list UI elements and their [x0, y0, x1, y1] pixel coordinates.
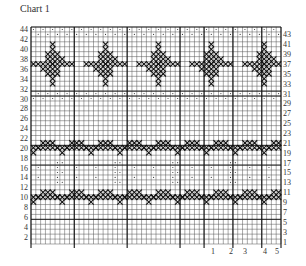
- row-label: 37: [283, 60, 291, 69]
- row-label: 26: [20, 114, 28, 123]
- row-label: 4: [24, 223, 28, 232]
- row-label: 17: [283, 159, 291, 168]
- row-label: 34: [20, 75, 28, 84]
- row-label: 7: [283, 208, 287, 217]
- grid-lines: [31, 27, 281, 244]
- row-label: 21: [283, 139, 291, 148]
- row-label: 33: [283, 80, 291, 89]
- row-label: 42: [20, 35, 28, 44]
- row-label: 9: [283, 198, 287, 207]
- left-row-numbers: 4442403836343230282624222018161412108642: [20, 25, 28, 241]
- row-label: 38: [20, 55, 28, 64]
- row-label: 28: [20, 104, 28, 113]
- row-label: 13: [283, 178, 291, 187]
- row-label: 15: [283, 168, 291, 177]
- row-label: 3: [283, 228, 287, 237]
- section-marker-label: 5: [275, 247, 279, 256]
- row-label: 25: [283, 119, 291, 128]
- row-label: 20: [20, 144, 28, 153]
- row-label: 1: [283, 238, 287, 247]
- row-label: 29: [283, 99, 291, 108]
- row-label: 10: [20, 193, 28, 202]
- right-row-numbers: 434139373533312927252321191715131197531: [283, 30, 291, 246]
- row-label: 35: [283, 70, 291, 79]
- row-label: 39: [283, 50, 291, 59]
- row-label: 24: [20, 124, 28, 133]
- row-label: 16: [20, 164, 28, 173]
- row-label: 22: [20, 134, 28, 143]
- row-label: 32: [20, 85, 28, 94]
- row-label: 27: [283, 109, 291, 118]
- knitting-chart-grid: 4442403836343230282624222018161412108642…: [0, 0, 306, 266]
- row-label: 14: [20, 173, 28, 182]
- row-label: 5: [283, 218, 287, 227]
- row-label: 8: [24, 203, 28, 212]
- row-label: 30: [20, 95, 28, 104]
- row-label: 6: [24, 213, 28, 222]
- row-label: 12: [20, 183, 28, 192]
- row-label: 44: [20, 25, 28, 34]
- row-label: 23: [283, 129, 291, 138]
- bottom-section-markers: 12345: [211, 247, 279, 256]
- row-label: 31: [283, 90, 291, 99]
- row-label: 18: [20, 154, 28, 163]
- row-label: 40: [20, 45, 28, 54]
- row-label: 36: [20, 65, 28, 74]
- section-marker-label: 1: [211, 247, 215, 256]
- row-label: 2: [24, 233, 28, 242]
- row-label: 41: [283, 40, 291, 49]
- row-label: 19: [283, 149, 291, 158]
- section-marker-label: 4: [263, 247, 267, 256]
- section-marker-label: 2: [229, 247, 233, 256]
- section-marker-label: 3: [243, 247, 247, 256]
- row-label: 43: [283, 30, 291, 39]
- row-label: 11: [283, 188, 291, 197]
